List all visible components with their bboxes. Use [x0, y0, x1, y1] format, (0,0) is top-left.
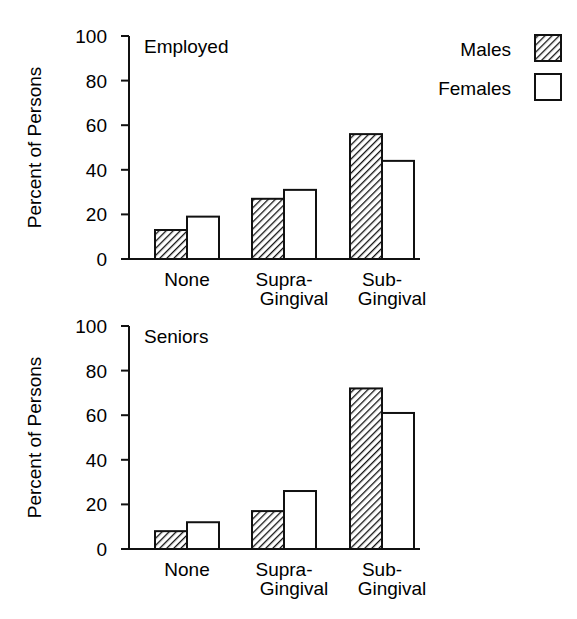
y-tick-label: 40 — [86, 450, 107, 471]
legend-swatch-females — [535, 74, 561, 100]
bar-males — [252, 511, 284, 549]
x-category-label: None — [164, 559, 209, 580]
x-category-label: Gingival — [260, 288, 329, 309]
x-category-label: Supra- — [255, 269, 312, 290]
bar-males — [252, 199, 284, 259]
y-tick-label: 60 — [86, 115, 107, 136]
bar-females — [187, 217, 219, 259]
y-tick-label: 0 — [96, 249, 107, 270]
bar-females — [284, 491, 316, 549]
bar-females — [284, 190, 316, 259]
y-tick-label: 20 — [86, 204, 107, 225]
legend: Males Females — [438, 35, 561, 100]
legend-label-females: Females — [438, 78, 511, 99]
bar-males — [350, 134, 382, 259]
y-tick-label: 60 — [86, 405, 107, 426]
x-category-label: Sub- — [362, 269, 402, 290]
bar-males — [350, 388, 382, 549]
y-tick-label: 100 — [75, 316, 107, 337]
panel-title: Seniors — [144, 326, 208, 347]
bar-females — [382, 413, 414, 549]
legend-swatch-males — [535, 35, 561, 61]
bar-females — [382, 161, 414, 259]
x-category-label: Supra- — [255, 559, 312, 580]
panel-title: Employed — [144, 36, 229, 57]
x-category-label: Gingival — [358, 578, 427, 599]
y-axis-label: Percent of Persons — [24, 67, 45, 229]
y-tick-label: 100 — [75, 26, 107, 47]
x-category-label: Gingival — [358, 288, 427, 309]
chart-panel-employed: Percent of Persons020406080100EmployedNo… — [24, 26, 426, 309]
x-category-label: Gingival — [260, 578, 329, 599]
x-category-label: None — [164, 269, 209, 290]
bar-females — [187, 522, 219, 549]
bar-males — [155, 531, 187, 549]
chart-panel-seniors: Percent of Persons020406080100SeniorsNon… — [24, 316, 426, 599]
legend-label-males: Males — [460, 39, 511, 60]
y-tick-label: 40 — [86, 160, 107, 181]
y-tick-label: 80 — [86, 71, 107, 92]
y-tick-label: 80 — [86, 361, 107, 382]
chart-canvas: Males Females Percent of Persons02040608… — [0, 0, 577, 619]
y-tick-label: 20 — [86, 494, 107, 515]
bar-males — [155, 230, 187, 259]
y-tick-label: 0 — [96, 539, 107, 560]
y-axis-label: Percent of Persons — [24, 357, 45, 519]
x-category-label: Sub- — [362, 559, 402, 580]
